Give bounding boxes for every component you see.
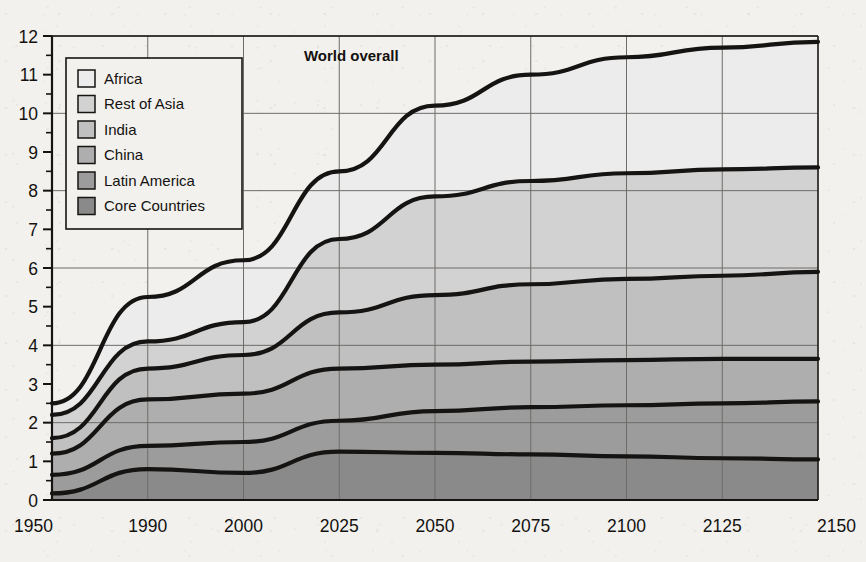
x-tick-label-2075: 2075 <box>511 516 550 536</box>
chart-annotations-group: World overall <box>304 47 399 64</box>
x-tick-label-2050: 2050 <box>416 516 455 536</box>
x-tick-label-2000: 2000 <box>224 516 263 536</box>
legend-label-rest-of-asia: Rest of Asia <box>104 95 185 112</box>
legend-item-latin-america[interactable]: Latin America <box>78 172 196 190</box>
legend-label-china: China <box>104 146 144 163</box>
y-tick-label-9: 9 <box>28 143 38 163</box>
legend-label-core-countries: Core Countries <box>104 197 205 214</box>
y-tick-label-1: 1 <box>28 452 38 472</box>
annotation-world-overall: World overall <box>304 47 399 64</box>
y-tick-label-4: 4 <box>28 336 38 356</box>
y-tick-label-3: 3 <box>28 375 38 395</box>
legend-item-india[interactable]: India <box>78 121 137 139</box>
y-tick-label-11: 11 <box>20 65 38 85</box>
y-tick-label-5: 5 <box>28 297 38 317</box>
y-tick-label-0: 0 <box>28 491 38 511</box>
y-tick-label-8: 8 <box>28 181 38 201</box>
y-tick-label-6: 6 <box>28 259 38 279</box>
x-tick-label-2150: 2150 <box>817 516 856 536</box>
y-axis-tick-labels: 0123456789101112 <box>19 27 39 511</box>
x-axis-tick-labels: 195019902000202520502075210021252150 <box>14 516 856 536</box>
legend-swatch-africa <box>78 70 95 87</box>
population-projection-area-chart: 0123456789101112 19501990200020252050207… <box>0 0 866 562</box>
x-tick-label-1990: 1990 <box>128 516 167 536</box>
legend-label-africa: Africa <box>104 70 143 87</box>
legend-label-india: India <box>104 121 137 138</box>
y-tick-label-12: 12 <box>19 27 38 47</box>
figure-container: 0123456789101112 19501990200020252050207… <box>0 0 866 562</box>
x-tick-label-2100: 2100 <box>607 516 646 536</box>
y-tick-label-2: 2 <box>28 413 38 433</box>
y-tick-label-7: 7 <box>28 220 38 240</box>
legend-item-africa[interactable]: Africa <box>78 70 143 88</box>
legend-swatch-china <box>78 147 95 164</box>
legend-swatch-core-countries <box>78 198 95 215</box>
x-tick-label-2125: 2125 <box>703 516 742 536</box>
legend-label-latin-america: Latin America <box>104 172 196 189</box>
legend-swatch-india <box>78 121 95 138</box>
chart-legend: AfricaRest of AsiaIndiaChinaLatin Americ… <box>66 58 242 229</box>
legend-swatch-latin-america <box>78 172 95 189</box>
x-tick-label-2025: 2025 <box>320 516 359 536</box>
x-tick-label-1950: 1950 <box>14 516 53 536</box>
legend-item-china[interactable]: China <box>78 146 144 164</box>
y-tick-label-10: 10 <box>19 104 39 124</box>
legend-item-rest-of-asia[interactable]: Rest of Asia <box>78 95 185 113</box>
legend-swatch-rest-of-asia <box>78 96 95 113</box>
